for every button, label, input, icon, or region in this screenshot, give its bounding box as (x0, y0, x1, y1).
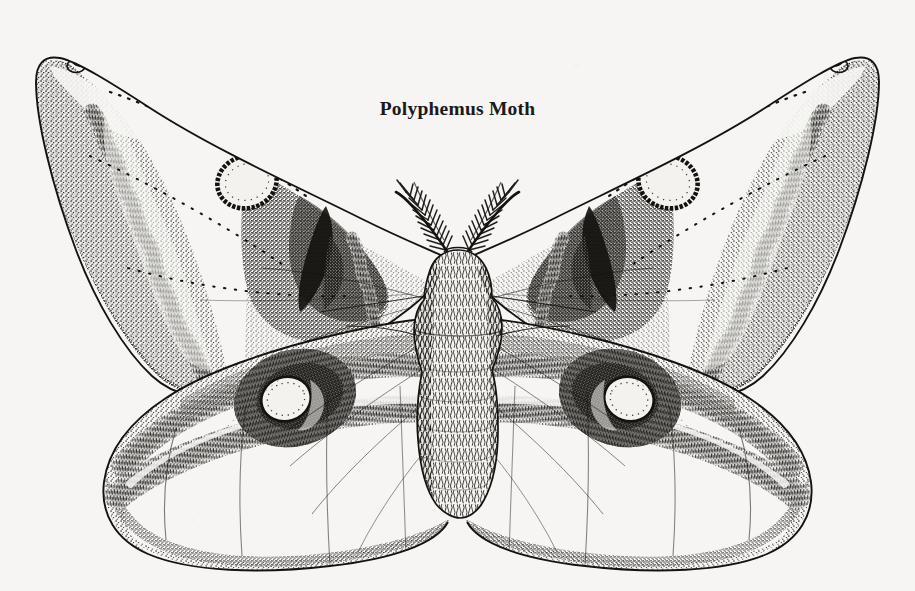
moth-illustration (0, 0, 915, 591)
page-title: Polyphemus Moth (0, 98, 915, 120)
illustration-plate: Polyphemus Moth (0, 0, 915, 591)
